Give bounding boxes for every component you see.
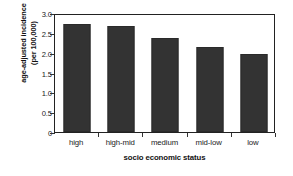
bar <box>152 38 179 132</box>
y-axis-tick-label: 0 <box>18 129 52 138</box>
x-axis-tick-mark <box>98 133 99 137</box>
x-axis-tick-mark <box>231 133 232 137</box>
y-axis-tick-label: 2.5 <box>18 29 52 38</box>
y-axis-tick-label: 3.0 <box>18 10 52 19</box>
bar <box>240 54 267 132</box>
bar-chart-figure: age-adjusted incidence (per 100,000) 00.… <box>0 0 293 176</box>
bar <box>108 26 135 132</box>
x-axis-tick-mark <box>275 133 276 137</box>
y-axis-tick-label: 0.5 <box>18 109 52 118</box>
bar-slot <box>232 15 276 132</box>
plot-area <box>54 14 275 133</box>
y-axis-tick-label: 1.5 <box>18 69 52 78</box>
bar <box>196 47 223 132</box>
bar-slot <box>99 15 143 132</box>
y-axis-tick-label: 2.0 <box>18 49 52 58</box>
y-axis-title-line-2: (per 100,000) <box>29 21 39 65</box>
bar-slot <box>55 15 99 132</box>
x-axis-tick-label: low <box>223 138 283 147</box>
x-axis-tick-mark <box>142 133 143 137</box>
bar-series <box>55 15 274 132</box>
bar-slot <box>188 15 232 132</box>
bar <box>64 24 91 132</box>
bar-slot <box>143 15 187 132</box>
x-axis-title: socio economic status <box>54 153 275 162</box>
x-axis-tick-mark <box>187 133 188 137</box>
y-axis-tick-mark <box>50 133 55 134</box>
y-axis-tick-label: 1.0 <box>18 89 52 98</box>
